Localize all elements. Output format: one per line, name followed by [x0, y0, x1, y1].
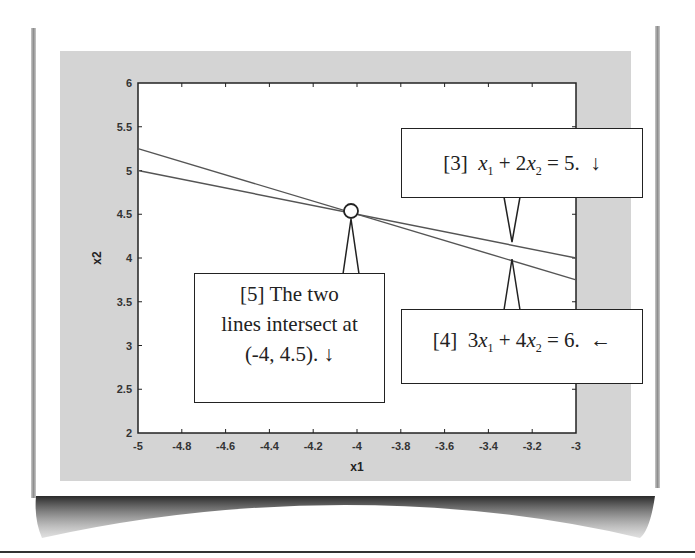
x-axis-label: x1	[350, 460, 364, 474]
callout-3-equation: [3] x1 + 2x2 = 5. ↓	[401, 128, 643, 198]
svg-text:4: 4	[126, 252, 133, 264]
callout-5-intersection: [5] The two lines intersect at (-4, 4.5)…	[194, 273, 385, 403]
intersection-marker	[344, 204, 358, 218]
callout-3-rhs: = 5.	[542, 151, 580, 175]
callout-4-equation: [4] 3x1 + 4x2 = 6. ←	[401, 309, 643, 384]
callout-4-mid: + 4	[494, 328, 527, 352]
svg-text:-4: -4	[352, 440, 363, 452]
left-arrow-icon: ←	[590, 328, 611, 352]
callout-3-prefix: [3]	[443, 151, 468, 175]
svg-text:5: 5	[126, 165, 132, 177]
svg-text:-3: -3	[571, 440, 581, 452]
x-tick-labels: -5 -4.8 -4.6 -4.4 -4.2 -4 -3.8 -3.6 -3.4…	[133, 440, 581, 452]
svg-text:-3.6: -3.6	[435, 440, 454, 452]
svg-text:4.5: 4.5	[117, 208, 132, 220]
svg-text:-3.4: -3.4	[479, 440, 499, 452]
callout-5-line2: lines intersect at	[195, 309, 384, 339]
svg-text:-4.8: -4.8	[172, 440, 191, 452]
svg-text:3.5: 3.5	[117, 296, 132, 308]
svg-text:-4.6: -4.6	[216, 440, 235, 452]
callout-3-mid: + 2	[494, 151, 527, 175]
card-curl-shadow	[36, 496, 655, 538]
svg-text:2.5: 2.5	[117, 383, 132, 395]
callout-4-var-a: x	[478, 328, 487, 352]
svg-text:6: 6	[126, 77, 132, 89]
callout-3-var-b: x	[526, 151, 535, 175]
svg-text:-3.8: -3.8	[391, 440, 410, 452]
y-axis-label: x2	[90, 251, 104, 265]
svg-text:-5: -5	[133, 440, 143, 452]
callout-5-line3: (-4, 4.5). ↓	[195, 339, 384, 369]
callout-3-var-a: x	[478, 151, 487, 175]
callout-4-var-b: x	[526, 328, 535, 352]
y-tick-labels: 2 2.5 3 3.5 4 4.5 5 5.5 6	[117, 77, 133, 439]
callout-4-rhs: = 6.	[542, 328, 580, 352]
svg-text:-4.2: -4.2	[304, 440, 323, 452]
svg-text:3: 3	[126, 340, 132, 352]
bottom-divider	[0, 551, 695, 553]
callout-4-coef-a: 3	[468, 328, 479, 352]
svg-text:5.5: 5.5	[117, 121, 132, 133]
figure-photo: -5 -4.8 -4.6 -4.4 -4.2 -4 -3.8 -3.6 -3.4…	[0, 0, 695, 558]
svg-text:-3.2: -3.2	[523, 440, 542, 452]
callout-4-prefix: [4]	[433, 328, 458, 352]
svg-text:2: 2	[126, 427, 132, 439]
callout-5-line1: [5] The two	[195, 279, 384, 309]
svg-text:-4.4: -4.4	[260, 440, 280, 452]
down-arrow-icon: ↓	[590, 151, 601, 175]
